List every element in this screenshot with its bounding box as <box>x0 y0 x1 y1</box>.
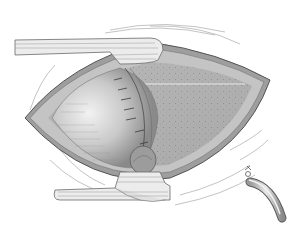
appendage <box>130 146 156 174</box>
lower-retractor <box>54 172 170 202</box>
drain-tube <box>249 180 282 218</box>
surgical-illustration <box>0 0 303 231</box>
upper-retractor <box>15 38 163 64</box>
